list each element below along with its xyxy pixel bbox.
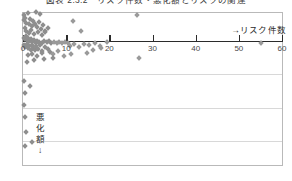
x-tick-50 [239, 35, 240, 42]
scatter-point [90, 48, 96, 54]
scatter-point [134, 12, 140, 18]
legend-risk-count: →リスク件数 [231, 23, 286, 35]
y-axis-label-char-1: 化 [34, 123, 46, 134]
scatter-point [70, 18, 76, 24]
x-tick-label-0: 0 [12, 44, 34, 53]
scatter-point [84, 50, 90, 56]
x-tick-label-30: 30 [142, 44, 164, 53]
y-axis-label-char-2: 額 [34, 134, 46, 145]
scatter-point [22, 115, 28, 121]
scatter-point [22, 143, 28, 149]
x-tick-30 [153, 35, 154, 42]
scatter-point [61, 53, 67, 59]
scatter-point [27, 83, 33, 89]
scatter-point [86, 42, 92, 48]
figure-title: 図表 2.3.2 リスク件数・悪化額とリスクの関連 [0, 0, 292, 5]
x-tick-label-40: 40 [185, 44, 207, 53]
scatter-point [136, 56, 142, 62]
scatter-point [50, 55, 56, 61]
x-tick-60 [282, 35, 283, 42]
scatter-point [25, 10, 31, 16]
plot-area [22, 12, 283, 166]
x-tick-label-60: 60 [271, 44, 292, 53]
y-axis-label-char-3: ↓ [34, 145, 46, 156]
gridline-3 [23, 141, 282, 142]
scatter-point [41, 57, 47, 63]
scatter-point [37, 11, 43, 17]
y-axis-label-char-0: 悪 [34, 112, 46, 123]
scatter-point [78, 28, 84, 34]
scatter-point [22, 90, 28, 96]
scatter-point [24, 59, 30, 65]
y-axis-label: 悪 化 額 ↓ [34, 112, 46, 156]
scatter-point [31, 58, 37, 64]
figure-container: 図表 2.3.2 リスク件数・悪化額とリスクの関連 0102030405060 … [0, 0, 292, 181]
x-tick-label-20: 20 [98, 44, 120, 53]
gridline-2 [23, 108, 282, 109]
x-tick-label-10: 10 [55, 44, 77, 53]
scatter-point [23, 129, 29, 135]
x-tick-label-50: 50 [228, 44, 250, 53]
x-tick-40 [196, 35, 197, 42]
scatter-point [21, 78, 27, 84]
gridline-1 [23, 74, 282, 75]
